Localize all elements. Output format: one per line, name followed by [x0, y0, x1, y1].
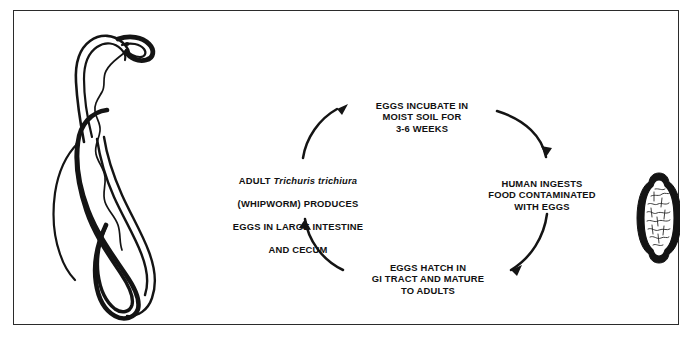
arrow-adult-to-incubate — [303, 109, 337, 158]
adult-label-line1-prefix: ADULT — [239, 175, 274, 186]
arrowhead-adult-to-incubate — [337, 104, 348, 115]
adult-whipworm-illustration — [54, 36, 155, 319]
arrow-ingests-to-hatch — [511, 214, 547, 270]
cycle-stage-label-hatch: EGGS HATCH IN GI TRACT AND MATURE TO ADU… — [351, 262, 505, 296]
cycle-stage-label-incubate: EGGS INCUBATE IN MOIST SOIL FOR 3-6 WEEK… — [352, 100, 492, 134]
arrowhead-incubate-to-ingests — [541, 146, 552, 157]
adult-label-line2: (WHIPWORM) PRODUCES — [238, 198, 359, 209]
trichuris-egg-illustration — [637, 173, 680, 263]
adult-label-line3: EGGS IN LARGE INTESTINE — [233, 221, 363, 232]
arrow-incubate-to-ingests — [497, 111, 546, 157]
adult-label-line4: AND CECUM — [269, 244, 328, 255]
species-name-italic: Trichuris trichiura — [274, 175, 358, 186]
figure-page: EGGS INCUBATE IN MOIST SOIL FOR 3-6 WEEK… — [0, 0, 695, 337]
figure-border-frame: EGGS INCUBATE IN MOIST SOIL FOR 3-6 WEEK… — [13, 10, 679, 325]
cycle-stage-label-adult: ADULT Trichuris trichiura (WHIPWORM) PRO… — [208, 164, 388, 255]
cycle-stage-label-ingests: HUMAN INGESTS FOOD CONTAMINATED WITH EGG… — [469, 178, 615, 212]
